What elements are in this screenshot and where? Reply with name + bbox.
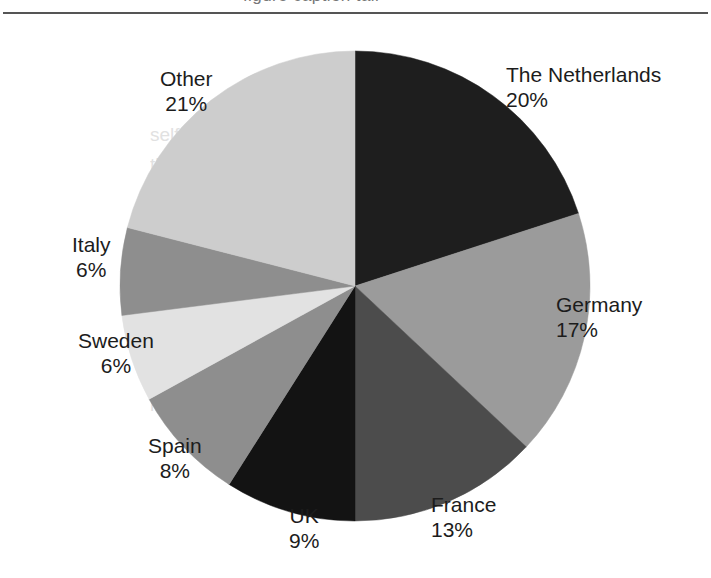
pie-slice-label-value: 6%	[72, 257, 111, 282]
pie-slice-label: The Netherlands20%	[506, 62, 661, 112]
pie-slice-label-value: 8%	[148, 458, 202, 483]
pie-slice-label-name: France	[431, 492, 496, 517]
pie-slice-label-name: The Netherlands	[506, 62, 661, 87]
pie-slice-label-value: 20%	[506, 87, 661, 112]
pie-slice-label: Sweden6%	[78, 328, 154, 378]
pie-slice-label-value: 21%	[160, 91, 213, 116]
pie-slice-label-value: 13%	[431, 517, 496, 542]
pie-slice-label: Germany17%	[556, 292, 642, 342]
pie-slice-label-value: 6%	[78, 353, 154, 378]
pie-slice-label-name: UK	[289, 503, 319, 528]
pie-slice-label: UK9%	[289, 503, 319, 553]
pie-chart-figure: figure caption tail self-evident that in…	[0, 0, 711, 578]
pie-slice-label-value: 17%	[556, 317, 642, 342]
pie-slice-label: France13%	[431, 492, 496, 542]
pie-slice-label-name: Italy	[72, 232, 111, 257]
pie-slice-label: Other21%	[160, 66, 213, 116]
pie-slice-label: Italy6%	[72, 232, 111, 282]
pie-slice-label-value: 9%	[289, 528, 319, 553]
pie-slice-label-name: Germany	[556, 292, 642, 317]
pie-slice-label-name: Spain	[148, 433, 202, 458]
pie-slice-label-name: Sweden	[78, 328, 154, 353]
pie-slice-label-name: Other	[160, 66, 213, 91]
pie-slice-label: Spain8%	[148, 433, 202, 483]
